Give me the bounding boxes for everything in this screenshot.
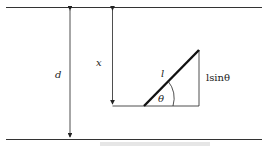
label-d: d xyxy=(55,70,61,80)
diagram: d x l θ lsinθ xyxy=(0,0,270,151)
caption-faint xyxy=(100,142,210,146)
label-l: l xyxy=(161,69,164,79)
angle-arc xyxy=(168,81,174,106)
label-x: x xyxy=(96,58,102,68)
rod-line xyxy=(144,50,199,106)
label-lsintheta: lsinθ xyxy=(206,73,230,83)
label-theta: θ xyxy=(158,94,164,104)
